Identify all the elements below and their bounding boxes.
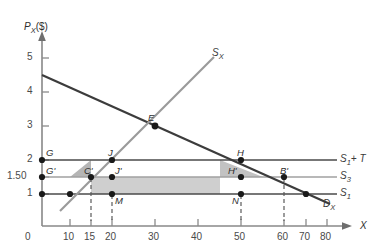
curve-label-dx-sub: X xyxy=(330,203,335,212)
x-tick-label-60: 60 xyxy=(277,232,288,242)
y-tick-label-1-50: 1.50 xyxy=(7,171,26,181)
point-G xyxy=(39,157,45,163)
x-axis-arrow xyxy=(342,222,352,230)
curve-label-s1-sub: 1 xyxy=(347,192,351,201)
x-tick-label-30: 30 xyxy=(148,232,159,242)
x-tick-label-50: 50 xyxy=(234,232,245,242)
curve-label-sx: SX xyxy=(212,48,224,61)
point-label-H: H xyxy=(237,148,244,158)
curve-label-s3-main: S xyxy=(340,170,347,181)
axes xyxy=(38,31,352,230)
x-axis-title: X xyxy=(360,221,367,231)
curve-label-s1-plus-t: S1+ T xyxy=(340,154,366,167)
y-tick-label-2: 2 xyxy=(27,154,33,164)
point-label-J-prime: J' xyxy=(115,166,122,176)
point-label-H-prime: H' xyxy=(228,166,237,176)
point-label-J: J xyxy=(108,148,113,158)
point-label-E: E xyxy=(148,113,154,123)
x-tick-label-70: 70 xyxy=(299,232,310,242)
point-label-C-prime: C' xyxy=(84,166,93,176)
x-tick-label-40: 40 xyxy=(191,232,202,242)
point-origin-s1 xyxy=(39,191,45,197)
chart-canvas xyxy=(0,0,381,252)
x-axis-ticks xyxy=(70,219,327,226)
curve-label-s1: S1 xyxy=(340,188,351,201)
y-tick-label-3: 3 xyxy=(27,120,33,130)
curve-label-sx-main: S xyxy=(212,47,219,58)
curve-label-s1t-tail: + T xyxy=(351,153,366,164)
x-tick-label-15: 15 xyxy=(84,232,95,242)
y-axis-title: PX($) xyxy=(24,22,48,35)
y-axis-title-tail: ($) xyxy=(36,21,48,32)
point-G-prime xyxy=(39,174,45,180)
point-label-B-prime: B' xyxy=(280,166,288,176)
y-tick-label-5: 5 xyxy=(27,52,33,62)
point-label-M: M xyxy=(115,196,123,206)
x-tick-label-0: 0 xyxy=(25,232,31,242)
curve-label-s3-sub: 3 xyxy=(347,175,351,184)
point-label-G-prime: G' xyxy=(46,166,55,176)
point-label-N: N xyxy=(232,196,239,206)
curve-label-s1t-main: S xyxy=(340,153,347,164)
point-dx-at-70 xyxy=(303,191,309,197)
y-tick-label-1: 1 xyxy=(27,188,33,198)
x-tick-label-10: 10 xyxy=(63,232,74,242)
x-tick-label-80: 80 xyxy=(320,232,331,242)
point-E xyxy=(152,123,159,130)
point-s1-at-10 xyxy=(67,191,73,197)
x-tick-label-20: 20 xyxy=(105,232,116,242)
point-label-G: G xyxy=(46,148,53,158)
curve-label-s3: S3 xyxy=(340,171,351,184)
curve-label-dx: DX xyxy=(323,199,335,212)
y-axis-title-main: P xyxy=(24,21,31,32)
y-tick-label-4: 4 xyxy=(27,86,33,96)
point-H-prime xyxy=(238,174,244,180)
curve-label-s1-main: S xyxy=(340,187,347,198)
curve-label-sx-sub: X xyxy=(219,52,224,61)
supply-demand-chart: PX($) 5 4 3 2 1.50 1 0 10 15 20 30 40 50… xyxy=(0,0,381,252)
